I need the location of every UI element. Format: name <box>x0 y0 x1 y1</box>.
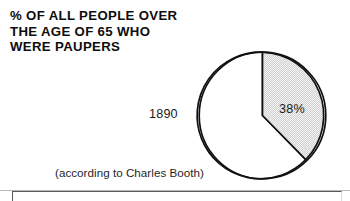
pie-chart-svg <box>196 49 329 182</box>
panel-frame <box>12 191 342 201</box>
chart-title: % OF ALL PEOPLE OVER THE AGE OF 65 WHO W… <box>10 8 220 55</box>
pauper-pie-figure: % OF ALL PEOPLE OVER THE AGE OF 65 WHO W… <box>0 0 350 201</box>
source-note: (according to Charles Booth) <box>55 166 204 179</box>
slice-value-label: 38% <box>279 102 305 116</box>
year-label: 1890 <box>149 107 178 121</box>
pie-chart <box>196 49 329 182</box>
